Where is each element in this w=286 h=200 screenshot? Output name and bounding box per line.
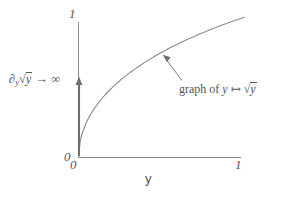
figure-sqrt-plot: ∂y√y → ∞ graph of y ↦ √y 1 0 0 1 y <box>0 0 286 200</box>
annotation-infinite-derivative: ∂y√y → ∞ <box>9 72 60 87</box>
plot-canvas <box>0 0 286 200</box>
x-axis-tick-label-0: 0 <box>70 158 77 171</box>
mapsto-symbol: ↦ <box>231 82 241 96</box>
sqrt-expression: √y <box>19 72 32 86</box>
vertical-tangent-arrowhead <box>76 77 83 86</box>
right-arrow-symbol: → <box>36 72 49 86</box>
graph-of-text: graph of <box>179 82 219 96</box>
callout-arrowhead <box>163 55 171 62</box>
radical-sign: √ <box>19 72 26 86</box>
annotation-graph-of: graph of y ↦ √y <box>179 82 257 95</box>
radicand: y <box>26 72 33 86</box>
variable-y: y <box>222 82 227 96</box>
radicand: y <box>250 82 256 95</box>
y-axis-tick-label-1: 1 <box>69 7 76 20</box>
sqrt-expression-graph: √y <box>244 82 257 95</box>
callout-arrow-shaft <box>166 59 183 81</box>
infinity-symbol: ∞ <box>51 72 60 86</box>
x-axis-label: y <box>145 172 152 185</box>
x-axis-tick-label-1: 1 <box>235 158 242 171</box>
